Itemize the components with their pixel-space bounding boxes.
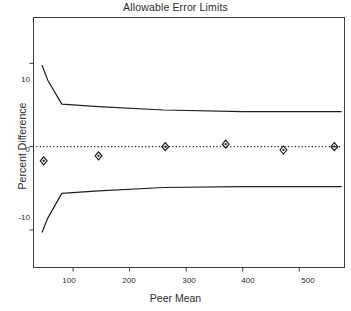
x-tick-label-2: 300 [174,276,204,285]
y-axis-ticks [30,63,34,230]
data-point-center [282,149,284,151]
series-0 [42,65,342,112]
y-tick-label-0: 10 [4,75,30,84]
data-point-center [97,155,99,157]
x-axis-label: Peer Mean [0,292,351,304]
y-tick-label-1: 0 [4,145,30,154]
x-tick-label-0: 100 [54,276,84,285]
data-point-center [225,143,227,145]
x-axis-ticks [73,268,299,272]
data-point-center [43,160,45,162]
plot-frame [34,18,345,268]
plot-area [0,0,351,311]
x-tick-label-3: 400 [233,276,263,285]
series-1 [42,187,342,233]
series-layer [36,65,341,233]
chart-title: Allowable Error Limits [0,1,351,13]
y-tick-label-2: -10 [4,213,30,222]
series-line [42,65,342,112]
series-line [42,187,342,233]
x-tick-label-1: 200 [114,276,144,285]
chart-figure: Allowable Error Limits Percent Differenc… [0,0,351,311]
data-point-center [164,146,166,148]
series-3 [40,140,337,165]
x-tick-label-4: 500 [293,276,323,285]
data-point-center [333,146,335,148]
